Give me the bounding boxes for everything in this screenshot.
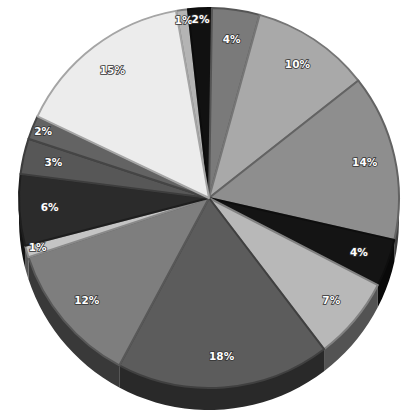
slice-label: 12% xyxy=(74,294,100,306)
slice-label: 4% xyxy=(350,246,368,258)
slice-label: 1% xyxy=(175,14,193,26)
slice-label: 1% xyxy=(29,241,47,253)
slice-label: 14% xyxy=(352,156,378,168)
slice-label: 2% xyxy=(192,13,210,25)
slice-label: 15% xyxy=(100,64,126,76)
slice-label: 7% xyxy=(322,294,340,306)
slice-label: 10% xyxy=(285,58,311,70)
slice-label: 6% xyxy=(41,201,59,213)
slice-label: 4% xyxy=(223,33,241,45)
pie-chart: 1%2%4%10%14%4%7%18%12%1%6%3%2%15% xyxy=(0,0,404,418)
pie-slices xyxy=(19,8,399,388)
slice-label: 2% xyxy=(34,125,52,137)
slice-label: 18% xyxy=(209,350,235,362)
slice-label: 3% xyxy=(44,156,62,168)
